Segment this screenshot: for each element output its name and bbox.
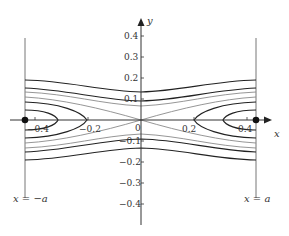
x-tick-label: −0.2 (79, 124, 101, 134)
left-equilibrium-point (22, 117, 29, 124)
x-tick-label: 0.4 (238, 124, 253, 134)
right-equilibrium-point (253, 117, 260, 124)
y-tick-label: 0.1 (124, 94, 138, 104)
y-tick-label: −0.4 (119, 199, 141, 209)
y-tick-label: −0.3 (119, 178, 141, 188)
left-boundary-label: x = −a (13, 193, 48, 204)
y-tick-label: 0.4 (124, 31, 139, 41)
y-axis-arrow-icon (138, 18, 145, 26)
x-axis-arrow-icon (264, 117, 272, 124)
y-tick-label: −0.2 (119, 157, 141, 167)
y-tick-label: 0.3 (124, 52, 139, 62)
x-tick-label: 0 (135, 123, 141, 133)
y-axis-label: y (146, 15, 153, 26)
y-tick-label: 0.2 (124, 73, 138, 83)
right-boundary-label: x = a (244, 193, 270, 204)
x-tick-label: −0.4 (27, 124, 49, 134)
phase-portrait-diagram: −0.4 −0.2 0 0.2 0.4 0.4 0.3 0.2 0.1 −0.1… (0, 0, 289, 236)
y-tick-label: −0.1 (119, 136, 141, 146)
x-tick-label: 0.2 (182, 124, 196, 134)
x-axis-label: x (274, 128, 280, 139)
